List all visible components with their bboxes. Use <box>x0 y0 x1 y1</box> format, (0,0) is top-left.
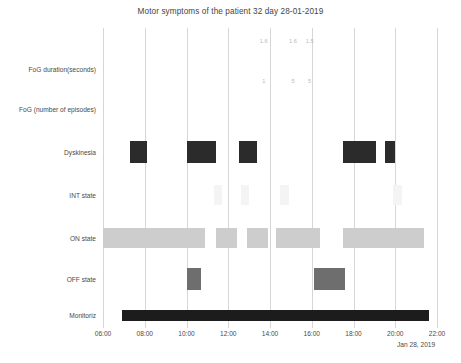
x-tick-1000: 10:00 <box>178 330 195 337</box>
x-tick-0800: 08:00 <box>136 330 153 337</box>
fog-value-labels-layer: 1.61.61.5155 <box>0 0 461 363</box>
value-label-fog-duration-seconds: 1.6 <box>260 38 268 44</box>
plot-area: 1.61.61.5155 <box>103 28 437 328</box>
x-axis-date-label: Jan 28, 2019 <box>397 341 435 348</box>
x-tick-1600: 16:00 <box>303 330 320 337</box>
x-tick-2000: 20:00 <box>387 330 404 337</box>
value-label-fog-duration-seconds: 1.6 <box>289 38 297 44</box>
x-tick-1800: 18:00 <box>345 330 362 337</box>
motor-symptoms-chart: Motor symptoms of the patient 32 day 28-… <box>0 0 461 363</box>
x-axis: 06:0008:0010:0012:0014:0016:0018:0020:00… <box>0 330 461 363</box>
value-label-fog-number-of-episodes: 5 <box>308 78 311 84</box>
value-label-fog-number-of-episodes: 5 <box>291 78 294 84</box>
x-tick-1400: 14:00 <box>262 330 279 337</box>
x-tick-0600: 06:00 <box>95 330 112 337</box>
value-label-fog-number-of-episodes: 1 <box>262 78 265 84</box>
x-tick-1200: 12:00 <box>220 330 237 337</box>
x-tick-2200: 22:00 <box>429 330 446 337</box>
value-label-fog-duration-seconds: 1.5 <box>306 38 314 44</box>
